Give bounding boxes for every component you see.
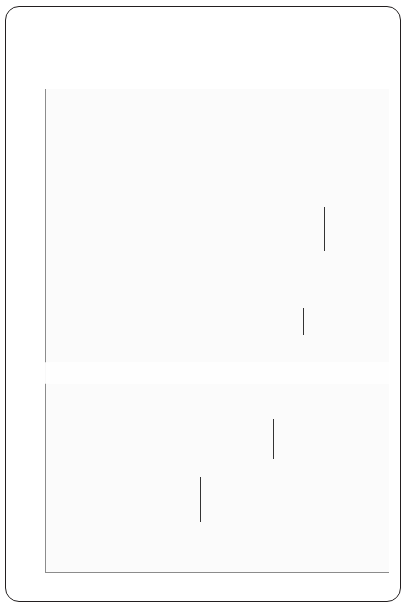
leader-line-5th — [200, 477, 201, 522]
y-axis-line — [45, 89, 46, 572]
x-axis-line — [45, 572, 389, 573]
leader-line-85th — [303, 308, 304, 335]
chart-card — [5, 6, 401, 602]
leader-line-50th — [273, 419, 274, 459]
percentile-curves — [45, 89, 389, 572]
leader-line-95th — [324, 207, 325, 251]
plot-area — [45, 89, 389, 572]
